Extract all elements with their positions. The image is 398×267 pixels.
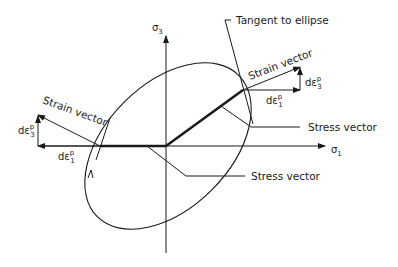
strain-label-left: Strain vector — [41, 94, 109, 129]
de1-left-label: dεp1 — [58, 149, 75, 165]
tangent-label: Tangent to ellipse — [235, 14, 329, 26]
sigma1-label: σ1 — [331, 144, 342, 158]
stress-vector-diagonal — [166, 90, 243, 146]
de3-right-label: dεp3 — [305, 75, 322, 91]
de1-right-label: dεp1 — [266, 93, 283, 109]
stress-leader-bottom — [147, 146, 245, 176]
de3-left-label: dεp3 — [18, 123, 35, 139]
stress-label-bottom: Stress vector — [251, 170, 321, 182]
yield-ellipse-diagram: σ1 σ3 Tangent to ellipse Strain vector d… — [0, 0, 398, 267]
stress-leader-right — [221, 106, 300, 127]
left-tangent-arrowhead — [88, 170, 93, 178]
sigma3-label: σ3 — [152, 22, 163, 36]
stress-label-right: Stress vector — [308, 121, 378, 133]
